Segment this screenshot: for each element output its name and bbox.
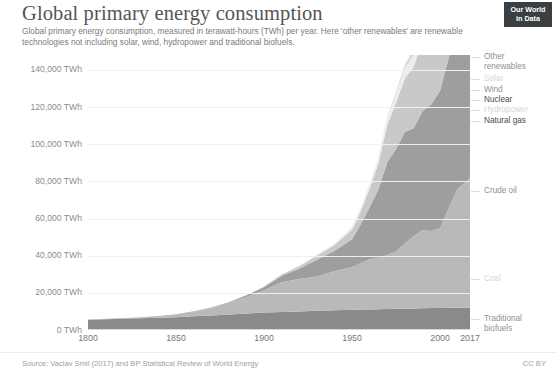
legend-label-crude-oil[interactable]: Crude oil — [484, 186, 517, 196]
logo-line-2: in Data — [516, 14, 540, 23]
legend-leader-line — [471, 319, 480, 320]
legend-label-natural-gas[interactable]: Natural gas — [484, 116, 526, 126]
gridline — [88, 70, 470, 71]
footer-divider — [0, 352, 556, 353]
legend-label-hydropower[interactable]: Hydropower — [484, 105, 528, 115]
source-note: Source: Vaclav Smil (2017) and BP Statis… — [22, 359, 258, 368]
gridline — [88, 293, 470, 294]
x-axis-tick-label: 1850 — [166, 333, 186, 343]
x-axis-tick-label: 1800 — [78, 333, 98, 343]
license-note[interactable]: CC BY — [523, 359, 546, 368]
y-axis-tick-label: 80,000 TWh — [0, 176, 82, 186]
chart-page: Global primary energy consumption Global… — [0, 0, 556, 384]
gridline — [88, 219, 470, 220]
y-axis-tick-label: 60,000 TWh — [0, 213, 82, 223]
y-axis-tick-label: 120,000 TWh — [0, 102, 82, 112]
legend-leader-line — [471, 191, 480, 192]
legend-leader-line — [471, 57, 480, 58]
gridline — [88, 256, 470, 257]
chart-subtitle: Global primary energy consumption, measu… — [22, 26, 474, 48]
legend-leader-line — [471, 90, 480, 91]
our-world-in-data-logo[interactable]: Our World in Data — [504, 2, 552, 27]
chart-plot-area — [88, 55, 470, 330]
legend-leader-line — [471, 121, 480, 122]
y-axis-tick-label: 140,000 TWh — [0, 64, 82, 74]
logo-line-1: Our World — [510, 5, 545, 14]
y-axis-tick-label: 20,000 TWh — [0, 287, 82, 297]
legend-leader-line — [471, 79, 480, 80]
page-title: Global primary energy consumption — [22, 2, 323, 25]
legend-label-nuclear[interactable]: Nuclear — [484, 95, 512, 105]
gridline — [88, 144, 470, 145]
y-axis-tick-label: 100,000 TWh — [0, 139, 82, 149]
x-axis-tick-label: 2000 — [430, 333, 450, 343]
legend-label-coal[interactable]: Coal — [484, 274, 501, 284]
y-axis-tick-label: 40,000 TWh — [0, 250, 82, 260]
x-axis-tick-label: 1950 — [342, 333, 362, 343]
legend-leader-line — [471, 110, 480, 111]
x-axis-line — [88, 329, 470, 330]
x-axis-tick-label: 1900 — [254, 333, 274, 343]
gridline — [88, 181, 470, 182]
legend-label-solar[interactable]: Solar — [484, 74, 503, 84]
x-axis-tick-label: 2017 — [460, 333, 480, 343]
gridline — [88, 107, 470, 108]
legend-leader-line — [471, 100, 480, 101]
stacked-area-series — [88, 55, 470, 330]
y-axis-tick-label: 0 TWh — [0, 325, 82, 335]
legend-label-other-renewables[interactable]: Other renewables — [484, 52, 526, 71]
legend-label-traditional-biofuels[interactable]: Traditional biofuels — [484, 314, 522, 333]
legend-leader-line — [471, 279, 480, 280]
legend-label-wind[interactable]: Wind — [484, 85, 503, 95]
